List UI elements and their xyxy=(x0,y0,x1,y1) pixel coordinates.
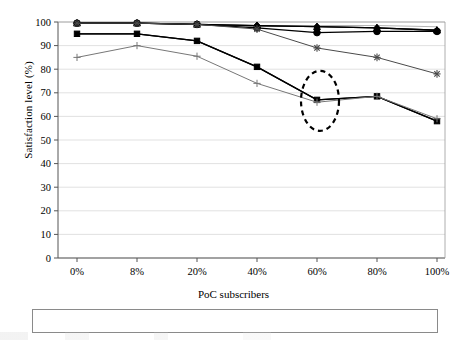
svg-text:70: 70 xyxy=(41,87,52,98)
svg-text:20%: 20% xyxy=(187,266,207,277)
svg-text:60%: 60% xyxy=(307,266,327,277)
svg-text:100: 100 xyxy=(35,17,51,28)
x-axis-title: PoC subscribers xyxy=(0,288,467,300)
series-video xyxy=(74,31,439,124)
svg-text:50: 50 xyxy=(41,135,52,146)
svg-text:80: 80 xyxy=(41,64,52,75)
svg-text:100%: 100% xyxy=(425,266,450,277)
data-series-group xyxy=(73,19,440,123)
svg-text:20: 20 xyxy=(41,205,52,216)
svg-text:40: 40 xyxy=(41,158,52,169)
svg-text:60: 60 xyxy=(41,111,52,122)
x-axis-ticks: 0%8%20%40%60%80%100% xyxy=(70,258,450,277)
svg-text:0: 0 xyxy=(46,253,51,264)
svg-text:80%: 80% xyxy=(367,266,387,277)
chart-page: 1009080706050403020100 0%8%20%40%60%80%1… xyxy=(0,0,467,340)
page-footer-artifact xyxy=(0,332,467,340)
series-dialup xyxy=(73,42,440,122)
gridlines xyxy=(58,22,445,258)
svg-text:30: 30 xyxy=(41,182,52,193)
svg-text:40%: 40% xyxy=(247,266,267,277)
svg-text:90: 90 xyxy=(41,40,52,51)
svg-text:10: 10 xyxy=(41,229,52,240)
y-axis-title: Satisfaction level (%) xyxy=(22,30,34,190)
chart-legend xyxy=(32,309,438,333)
svg-text:8%: 8% xyxy=(130,266,144,277)
svg-text:0%: 0% xyxy=(70,266,84,277)
chart-plot-area: 1009080706050403020100 0%8%20%40%60%80%1… xyxy=(0,0,467,340)
y-axis-ticks: 1009080706050403020100 xyxy=(35,17,58,264)
satisfaction-line-chart: 1009080706050403020100 0%8%20%40%60%80%1… xyxy=(0,0,467,300)
